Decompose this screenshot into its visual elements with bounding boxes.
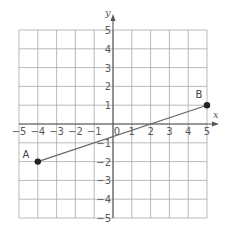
x-tick-label: −1	[87, 126, 102, 137]
x-tick-label: −2	[68, 126, 83, 137]
y-tick-label: −4	[96, 194, 111, 205]
axes	[19, 14, 219, 218]
x-tick-label: 5	[204, 126, 210, 137]
y-tick-label: 1	[105, 100, 111, 111]
point-a-marker	[35, 158, 41, 164]
x-tick-label: −4	[30, 126, 45, 137]
y-tick-label: −2	[96, 157, 111, 168]
point-a-label: A	[22, 149, 29, 160]
x-tick-label: 2	[147, 126, 153, 137]
y-tick-label: −5	[96, 213, 111, 224]
x-axis-label: x	[213, 109, 219, 120]
x-tick-label: 1	[129, 126, 135, 137]
x-tick-label: 4	[185, 126, 191, 137]
point-b-marker	[204, 102, 210, 108]
y-axis-label: y	[104, 7, 111, 18]
y-tick-label: 3	[105, 63, 111, 74]
point-b-label: B	[196, 89, 203, 100]
y-tick-label: 5	[105, 25, 111, 36]
y-tick-label: 2	[105, 81, 111, 92]
x-tick-label: −5	[12, 126, 27, 137]
y-axis-arrow-icon	[111, 14, 116, 21]
coordinate-plane: −5−4−3−2−101234554321−1−2−3−4−5 AB x y	[0, 0, 227, 234]
y-tick-label: −3	[96, 175, 111, 186]
x-axis-arrow-icon	[212, 122, 219, 127]
y-tick-label: 4	[105, 44, 111, 55]
x-tick-label: −3	[49, 126, 64, 137]
x-tick-label: 3	[166, 126, 172, 137]
